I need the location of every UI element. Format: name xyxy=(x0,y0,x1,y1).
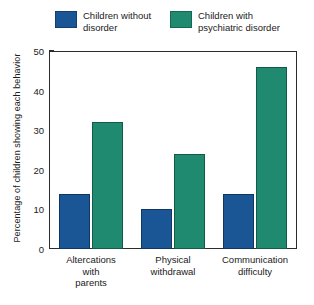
bar xyxy=(256,67,287,249)
y-tick-label: 0 xyxy=(4,244,44,255)
bar xyxy=(141,209,172,249)
bars-layer xyxy=(50,51,296,249)
bar xyxy=(223,194,254,249)
legend-swatch-icon-green xyxy=(170,11,192,28)
bar xyxy=(174,154,205,249)
legend-entry-children-with-psychiatric-disorder: Children with psychiatric disorder xyxy=(170,10,280,33)
bar xyxy=(92,122,123,249)
x-category-label: Communication difficulty xyxy=(210,254,300,277)
y-tick-label: 10 xyxy=(4,204,44,215)
x-category-label: Altercations with parents xyxy=(46,254,136,289)
y-tick-label: 30 xyxy=(4,125,44,136)
x-category-label: Physical withdrawal xyxy=(128,254,218,277)
y-tick-label: 50 xyxy=(4,46,44,57)
bar-chart-figure: Children without disorder Children with … xyxy=(0,0,314,305)
y-axis-title: Percentage of children showing each beha… xyxy=(12,43,22,253)
legend-label-0: Children without disorder xyxy=(83,10,151,33)
legend-entry-children-without-disorder: Children without disorder xyxy=(55,10,151,33)
bar xyxy=(59,194,90,249)
legend-swatch-icon-blue xyxy=(55,11,77,28)
y-tick-label: 20 xyxy=(4,164,44,175)
legend-label-1: Children with psychiatric disorder xyxy=(198,10,280,33)
y-tick-label: 40 xyxy=(4,85,44,96)
chart-legend: Children without disorder Children with … xyxy=(0,10,314,42)
